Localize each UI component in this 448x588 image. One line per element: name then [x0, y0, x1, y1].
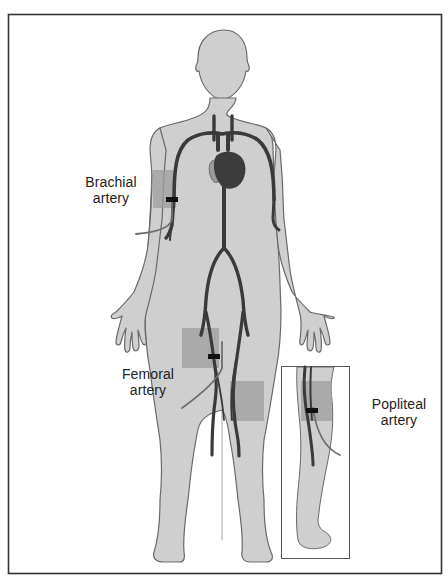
femoral-label-line1: Femoral	[115, 366, 181, 382]
femoral-insertion-marker	[208, 354, 220, 359]
anatomy-illustration	[0, 0, 448, 588]
head	[196, 30, 250, 100]
femoral-artery-label: Femoral artery	[115, 366, 181, 398]
brachial-insertion-marker	[166, 197, 178, 202]
brachial-label-line1: Brachial	[78, 174, 144, 190]
brachial-label-line2: artery	[78, 190, 144, 206]
popliteal-label-line1: Popliteal	[364, 396, 434, 412]
popliteal-label-line2: artery	[364, 412, 434, 428]
popliteal-inset	[282, 367, 350, 559]
femoral-label-line2: artery	[115, 382, 181, 398]
popliteal-artery-label: Popliteal artery	[364, 396, 434, 428]
diagram-canvas: Brachial artery Femoral artery Popliteal…	[0, 0, 448, 588]
brachial-artery-label: Brachial artery	[78, 174, 144, 206]
popliteal-insertion-marker	[306, 408, 318, 413]
